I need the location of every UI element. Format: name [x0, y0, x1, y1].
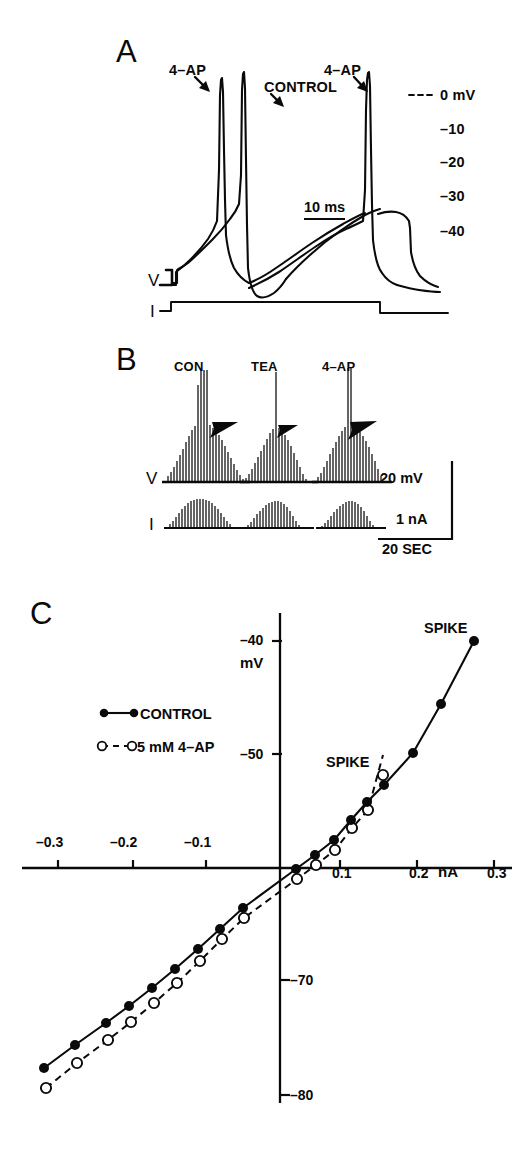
- panel-b-tea-current: [242, 501, 314, 528]
- panel-b-traces: [0, 330, 527, 555]
- figure-canvas: A 4–AP CONTROL 4–AP 0 mV –10 –20 –30 –40…: [0, 0, 527, 1153]
- arrowhead-tea: [277, 425, 298, 438]
- series-4ap: [41, 755, 388, 1093]
- panel-b-4ap-current: [316, 501, 386, 528]
- series-4ap-line: [46, 755, 383, 1088]
- series-control-line: [44, 641, 474, 1068]
- series-4ap-spike-marker: [378, 770, 388, 780]
- panel-b-con-voltage: [162, 370, 250, 482]
- panel-a-current-step: [160, 302, 448, 313]
- panel-a: A 4–AP CONTROL 4–AP 0 mV –10 –20 –30 –40…: [0, 0, 527, 330]
- series-control-spike-marker: [469, 636, 479, 646]
- panel-c: C mV nA –40 –50 –70 –80 –0.3 –0.2 –0.1 0…: [0, 555, 527, 1153]
- series-control: [39, 636, 479, 1073]
- panel-a-traces: [0, 0, 527, 330]
- panel-b: B CON TEA 4–AP V I 20 mV 1 nA 20 SEC: [0, 330, 527, 555]
- series-4ap-markers: [41, 770, 388, 1093]
- arrowhead-con: [210, 422, 238, 438]
- panel-b-con-current: [164, 499, 246, 528]
- panel-b-scale-bar: [378, 461, 452, 539]
- series-control-markers: [39, 636, 479, 1073]
- panel-c-plot: [0, 555, 527, 1153]
